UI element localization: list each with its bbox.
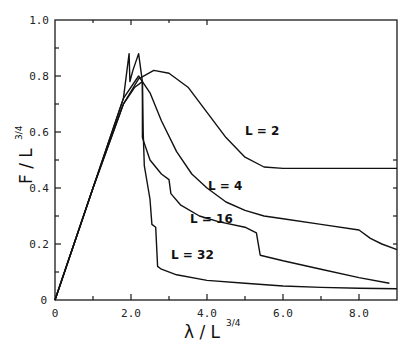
y-tick-label: 0 xyxy=(40,294,47,307)
curves xyxy=(55,54,397,300)
svg-text:λ / L: λ / L xyxy=(184,322,221,342)
y-tick-label: 1.0 xyxy=(29,14,49,27)
plot-frame xyxy=(55,20,397,300)
curve-label-l4: L = 4 xyxy=(208,179,242,193)
svg-text:3/4: 3/4 xyxy=(226,318,241,328)
chart: 0 2.0 4.0 6.0 8.0 0 0.2 0.4 0.6 0.8 1.0 … xyxy=(0,0,415,344)
y-axis-ticks xyxy=(55,48,397,272)
x-tick-label: 0 xyxy=(52,307,59,320)
curve-l32 xyxy=(55,54,397,300)
curve-label-l32: L = 32 xyxy=(171,248,214,262)
x-axis-label: λ / L 3/4 xyxy=(184,318,241,342)
x-tick-label: 4.0 xyxy=(197,307,217,320)
x-axis-ticks xyxy=(93,20,359,300)
y-tick-label: 0.8 xyxy=(29,70,49,83)
x-tick-label: 2.0 xyxy=(121,307,141,320)
svg-text:F / L: F / L xyxy=(16,148,36,184)
y-tick-label: 0.2 xyxy=(29,238,49,251)
x-tick-label: 8.0 xyxy=(349,307,369,320)
curve-label-l16: L = 16 xyxy=(190,212,233,226)
x-tick-label: 6.0 xyxy=(273,307,293,320)
svg-text:3/4: 3/4 xyxy=(14,125,24,140)
curve-label-l2: L = 2 xyxy=(245,124,279,138)
y-tick-label: 0.6 xyxy=(29,126,49,139)
